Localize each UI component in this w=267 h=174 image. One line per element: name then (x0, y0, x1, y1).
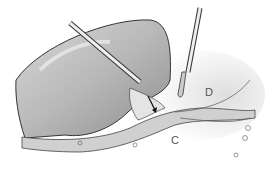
label-c: C (171, 134, 179, 146)
label-d: D (205, 86, 213, 98)
drawing (0, 0, 267, 174)
illustration: D C (0, 0, 267, 174)
